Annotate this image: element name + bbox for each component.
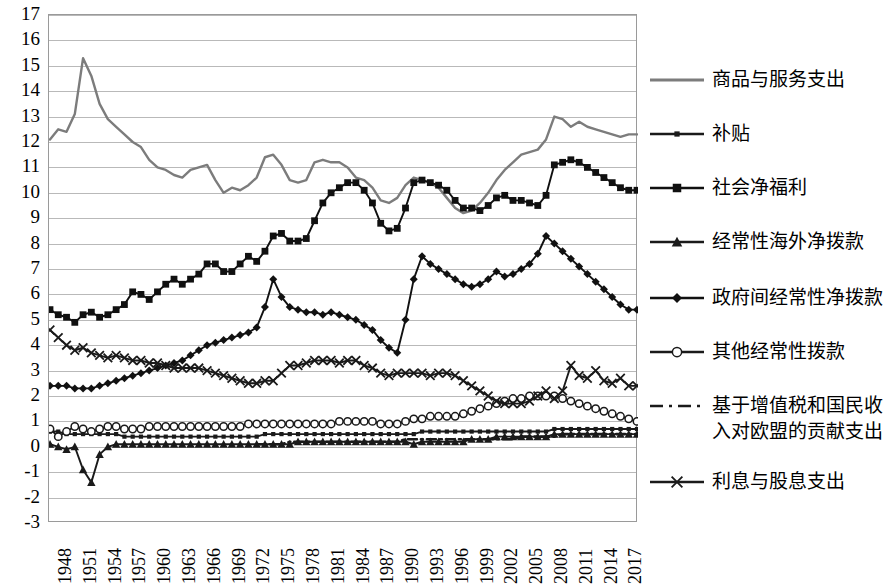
legend-item-subsidies[interactable]: 补贴 <box>650 120 750 146</box>
data-point-circle <box>360 418 367 425</box>
legend-item-net_social_benefits[interactable]: 社会净福利 <box>650 174 807 200</box>
y-axis: 17161514131211109876543210-1-2-3 <box>0 0 46 540</box>
data-point-square <box>609 179 616 186</box>
x-axis-tick-label: 2002 <box>502 548 520 584</box>
legend-item-net_current_grants_abroad[interactable]: 经常性海外净拨款 <box>650 228 864 254</box>
data-point-small-square <box>674 131 679 136</box>
data-point-circle <box>394 420 401 427</box>
data-point-circle <box>303 420 310 427</box>
data-point-square <box>477 207 484 214</box>
data-point-circle <box>575 400 582 407</box>
data-point-square <box>71 319 78 326</box>
data-point-square <box>617 184 624 191</box>
data-point-diamond <box>129 372 137 380</box>
data-point-diamond <box>211 339 219 347</box>
x-axis-tick-label: 1963 <box>180 548 198 584</box>
legend-marker-circle-icon <box>650 342 706 362</box>
x-axis-tick-label: 1975 <box>279 548 297 584</box>
data-point-diamond <box>96 382 104 390</box>
data-point-diamond <box>672 293 682 303</box>
data-point-small-square <box>470 429 474 433</box>
series-net_social_benefits <box>49 156 638 325</box>
data-point-circle <box>369 418 376 425</box>
data-point-circle <box>228 423 235 430</box>
x-axis-tick-label: 1972 <box>254 548 272 584</box>
legend-marker-none-icon <box>650 70 706 90</box>
data-point-square <box>311 217 318 224</box>
x-axis-tick-label: 1966 <box>205 548 223 584</box>
y-axis-tick-label: 0 <box>31 436 41 455</box>
x-axis-tick-label: 1981 <box>329 548 347 584</box>
x-axis-tick-label: 2005 <box>527 548 545 584</box>
y-axis-tick-label: -3 <box>24 512 40 531</box>
data-point-small-square <box>412 432 416 436</box>
data-point-cross <box>277 369 286 378</box>
data-point-small-square <box>436 429 440 433</box>
x-axis-tick-label: 1987 <box>378 548 396 584</box>
data-point-square <box>601 174 608 181</box>
data-point-square <box>551 161 558 168</box>
data-point-square <box>443 187 450 194</box>
data-point-square <box>361 187 368 194</box>
data-point-circle <box>352 418 359 425</box>
legend-item-goods_services[interactable]: 商品与服务支出 <box>650 66 845 92</box>
data-point-diamond <box>49 382 54 390</box>
data-point-small-square <box>222 435 226 439</box>
data-point-square <box>278 230 285 237</box>
data-point-circle <box>427 413 434 420</box>
data-point-small-square <box>263 432 267 436</box>
legend-item-net_current_grants_intergovernment[interactable]: 政府间经常性净拨款 <box>650 284 883 310</box>
data-point-square <box>88 309 95 316</box>
x-axis-tick-label: 1969 <box>230 548 248 584</box>
data-point-square <box>386 228 393 235</box>
data-point-small-square <box>164 435 168 439</box>
data-point-small-square <box>428 429 432 433</box>
data-point-cross <box>484 392 493 401</box>
data-point-circle <box>377 420 384 427</box>
y-axis-tick-label: 16 <box>21 29 40 48</box>
data-point-small-square <box>296 432 300 436</box>
data-point-small-square <box>395 432 399 436</box>
x-axis-tick-label: 1960 <box>155 548 173 584</box>
x-axis-tick-label: 2011 <box>577 549 595 584</box>
data-point-square <box>286 238 293 245</box>
data-point-square <box>460 205 467 212</box>
y-axis-tick-label: 8 <box>31 233 41 252</box>
data-point-circle <box>584 402 591 409</box>
data-point-square <box>96 314 103 321</box>
data-point-triangle <box>71 443 79 451</box>
y-axis-tick-label: 7 <box>31 258 41 277</box>
data-point-small-square <box>279 432 283 436</box>
data-point-circle <box>49 425 54 432</box>
data-point-small-square <box>453 429 457 433</box>
x-axis-tick-label: 2017 <box>626 548 644 584</box>
series-line-net_social_benefits <box>50 160 637 323</box>
legend-item-other_current_grants[interactable]: 其他经常性拨款 <box>650 338 845 364</box>
x-axis-tick-label: 2008 <box>552 548 570 584</box>
data-point-square <box>80 311 87 318</box>
data-point-square <box>344 179 351 186</box>
data-point-square <box>518 197 525 204</box>
data-point-circle <box>220 423 227 430</box>
data-point-small-square <box>197 435 201 439</box>
data-point-square <box>634 187 638 194</box>
data-point-circle <box>121 425 128 432</box>
data-point-square <box>485 202 492 209</box>
x-axis-tick-label: 1996 <box>453 548 471 584</box>
data-point-square <box>559 159 566 166</box>
data-point-small-square <box>147 435 151 439</box>
data-point-circle <box>137 425 144 432</box>
data-point-cross <box>459 376 468 385</box>
series-net_current_grants_abroad <box>49 430 638 486</box>
data-point-square <box>49 306 53 313</box>
data-point-square <box>171 276 178 283</box>
data-point-small-square <box>387 432 391 436</box>
legend-item-interest_dividends[interactable]: 利息与股息支出 <box>650 468 845 494</box>
y-axis-tick-label: 6 <box>31 283 41 302</box>
data-point-small-square <box>246 435 250 439</box>
data-point-circle <box>286 420 293 427</box>
data-point-diamond <box>468 283 476 291</box>
data-point-square <box>673 184 682 193</box>
data-point-square <box>501 192 508 199</box>
legend-item-eu_contributions_vat_gni[interactable]: 基于增值税和国民收 入对欧盟的贡献支出 <box>650 392 883 444</box>
